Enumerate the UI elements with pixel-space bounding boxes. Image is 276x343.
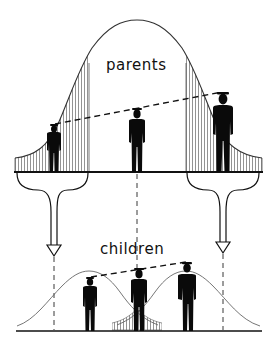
child-of-short-figure-icon <box>83 277 97 331</box>
children-label: children <box>100 240 164 258</box>
short-parents-arrow-icon <box>17 173 88 256</box>
parents-label: parents <box>106 56 166 74</box>
average-parent-figure-icon <box>129 108 145 172</box>
tall-parents-arrow-icon <box>187 173 259 253</box>
regression-diagram: parents children <box>0 0 276 343</box>
